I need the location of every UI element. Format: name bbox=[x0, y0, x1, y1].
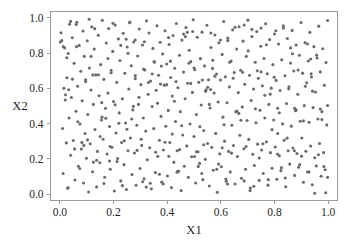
data-point bbox=[192, 135, 195, 138]
data-point bbox=[149, 182, 152, 185]
data-point bbox=[93, 48, 96, 51]
data-point bbox=[75, 23, 78, 26]
data-point bbox=[241, 71, 244, 74]
data-point bbox=[180, 189, 183, 192]
data-point bbox=[226, 183, 229, 186]
data-point bbox=[303, 104, 306, 107]
data-point bbox=[288, 163, 291, 166]
data-point bbox=[71, 78, 74, 81]
data-point bbox=[205, 24, 208, 27]
data-point bbox=[72, 139, 75, 142]
data-point bbox=[295, 44, 298, 47]
data-point bbox=[114, 131, 117, 134]
data-point bbox=[98, 94, 101, 97]
data-point bbox=[76, 85, 79, 88]
data-point bbox=[186, 31, 189, 34]
data-point bbox=[280, 58, 283, 61]
data-point bbox=[117, 122, 120, 125]
data-point bbox=[82, 181, 85, 184]
data-point bbox=[134, 74, 137, 77]
data-point bbox=[85, 157, 88, 160]
data-point bbox=[206, 86, 209, 89]
data-point bbox=[78, 122, 81, 125]
data-point bbox=[289, 62, 292, 65]
data-point bbox=[293, 149, 296, 152]
data-point bbox=[75, 45, 78, 48]
data-point bbox=[89, 88, 92, 91]
data-point bbox=[258, 156, 261, 159]
data-point bbox=[272, 118, 275, 121]
data-point bbox=[200, 103, 203, 106]
data-point bbox=[308, 31, 311, 34]
data-point bbox=[278, 111, 281, 114]
data-point bbox=[254, 107, 257, 110]
x-axis-title: X1 bbox=[186, 223, 201, 237]
data-point bbox=[310, 72, 313, 75]
data-point bbox=[110, 71, 113, 74]
data-point bbox=[165, 62, 168, 65]
data-point bbox=[139, 167, 142, 170]
data-point bbox=[100, 101, 103, 104]
data-point bbox=[213, 91, 216, 94]
data-point bbox=[137, 96, 140, 99]
data-point bbox=[141, 180, 144, 183]
data-point bbox=[231, 28, 234, 31]
data-point bbox=[266, 72, 269, 75]
data-point bbox=[302, 181, 305, 184]
data-point bbox=[62, 172, 65, 175]
data-point bbox=[156, 102, 159, 105]
data-point bbox=[240, 177, 243, 180]
data-point bbox=[98, 161, 101, 164]
data-point bbox=[228, 85, 231, 88]
data-point bbox=[123, 72, 126, 75]
data-point bbox=[290, 125, 293, 128]
data-point bbox=[162, 148, 165, 151]
x-tick-label: 0.6 bbox=[214, 206, 229, 218]
data-point bbox=[119, 44, 122, 47]
data-point bbox=[261, 84, 264, 87]
data-point bbox=[308, 121, 311, 124]
data-point bbox=[203, 64, 206, 67]
data-point bbox=[258, 109, 261, 112]
data-point bbox=[273, 76, 276, 79]
data-point bbox=[321, 47, 324, 50]
data-point bbox=[322, 151, 325, 154]
data-point bbox=[111, 50, 114, 53]
data-point bbox=[313, 156, 316, 159]
data-point bbox=[122, 163, 125, 166]
data-point bbox=[123, 139, 126, 142]
data-point bbox=[265, 140, 268, 143]
data-point bbox=[235, 48, 238, 51]
data-point bbox=[246, 19, 249, 22]
data-point bbox=[159, 83, 162, 86]
data-point bbox=[242, 40, 245, 43]
data-point bbox=[259, 45, 262, 48]
data-point bbox=[121, 97, 124, 100]
data-point bbox=[320, 175, 323, 178]
data-point bbox=[284, 177, 287, 180]
data-point bbox=[229, 170, 232, 173]
data-point bbox=[167, 155, 170, 158]
data-point bbox=[300, 155, 303, 158]
data-point bbox=[298, 163, 301, 166]
data-point bbox=[209, 32, 212, 35]
data-point bbox=[208, 184, 211, 187]
data-point bbox=[151, 47, 154, 50]
data-point bbox=[280, 166, 283, 169]
data-point bbox=[244, 145, 247, 148]
data-point bbox=[249, 189, 252, 192]
data-point bbox=[223, 140, 226, 143]
data-point bbox=[275, 79, 278, 82]
data-point bbox=[230, 124, 233, 127]
data-point bbox=[67, 186, 70, 189]
data-point bbox=[73, 178, 76, 181]
data-point bbox=[301, 72, 304, 75]
data-point bbox=[315, 164, 318, 167]
data-point bbox=[291, 52, 294, 55]
data-point bbox=[117, 37, 120, 40]
data-point bbox=[312, 106, 315, 109]
data-point bbox=[235, 110, 238, 113]
data-point bbox=[121, 184, 124, 187]
data-point bbox=[217, 100, 220, 103]
data-point bbox=[243, 179, 246, 182]
